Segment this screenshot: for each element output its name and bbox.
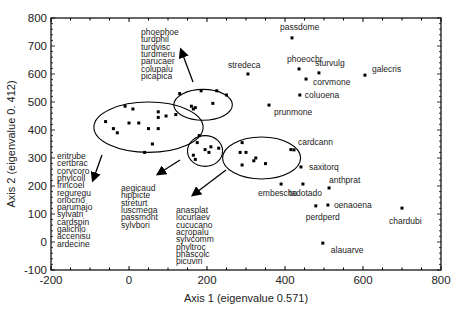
data-point: [147, 127, 150, 130]
point-labels: passdomestredecaphoeochrsturvulgcorvmone…: [228, 22, 422, 255]
point-label: coluoena: [305, 90, 340, 100]
y-tick-label: 100: [28, 208, 47, 220]
data-point: [157, 110, 160, 113]
point-label: galecris: [372, 64, 401, 74]
data-point: [328, 186, 331, 189]
data-point: [241, 164, 244, 167]
data-point: [112, 127, 115, 130]
species-label: picapica: [141, 71, 172, 81]
y-axis-label: Axis 2 (eigenvalue 0. 412): [5, 80, 17, 207]
point-label: chardubi: [389, 216, 422, 226]
species-label: picuviri: [176, 256, 203, 266]
data-point: [291, 36, 294, 39]
ca-ordination-scatter: -1000100200300400500600700800 -200020040…: [0, 0, 457, 313]
data-point: [305, 78, 308, 81]
point-label: tadotado: [289, 188, 322, 198]
data-point: [239, 151, 242, 154]
data-point: [178, 92, 181, 95]
data-point: [301, 183, 304, 186]
y-tick-label: 0: [41, 236, 47, 248]
x-tick-label: 600: [353, 274, 372, 286]
data-point: [321, 242, 324, 245]
point-label: perdperd: [306, 212, 340, 222]
data-point: [401, 207, 404, 210]
data-point: [198, 134, 201, 137]
data-point: [151, 143, 154, 146]
data-point: [280, 183, 283, 186]
arrow: [181, 50, 193, 82]
data-point: [299, 165, 302, 168]
plot-frame: [51, 18, 441, 270]
arrow: [193, 170, 226, 195]
y-tick-label: 800: [28, 12, 47, 24]
data-point: [194, 106, 197, 109]
data-point: [137, 122, 140, 125]
data-point: [116, 131, 119, 134]
data-point: [298, 94, 301, 97]
axis-ticks: [51, 18, 441, 270]
data-point: [289, 148, 292, 151]
y-tick-label: 300: [28, 152, 47, 164]
data-point: [264, 162, 267, 165]
data-point: [326, 204, 329, 207]
point-label: stredeca: [228, 60, 261, 70]
data-point: [225, 94, 228, 97]
point-label: passdome: [280, 22, 319, 32]
y-tick-label: 600: [28, 68, 47, 80]
y-tick-label: 400: [28, 124, 47, 136]
data-point: [104, 120, 107, 123]
data-point: [124, 105, 127, 108]
point-label: oenaoena: [334, 200, 372, 210]
point-label: saxitorq: [309, 162, 339, 172]
data-point: [268, 104, 271, 107]
x-tick-labels: -2000200400600800: [39, 274, 450, 286]
x-tick-label: 800: [431, 274, 450, 286]
x-tick-label: 0: [126, 274, 132, 286]
point-label: cardcann: [298, 137, 333, 147]
data-point: [252, 159, 255, 162]
data-point: [157, 127, 160, 130]
data-point: [143, 151, 146, 154]
data-point: [209, 145, 212, 148]
data-point: [204, 148, 207, 151]
cluster-ellipses: [94, 89, 301, 179]
data-point: [298, 67, 301, 70]
data-point: [215, 89, 218, 92]
x-tick-label: 200: [197, 274, 216, 286]
data-point: [128, 122, 131, 125]
point-label: prunmone: [274, 107, 313, 117]
data-point: [131, 108, 134, 111]
arrow: [93, 155, 102, 180]
point-label: alauarve: [331, 245, 364, 255]
x-tick-label: 400: [275, 274, 294, 286]
species-label: sylvbori: [121, 220, 150, 230]
data-point: [314, 204, 317, 207]
x-axis-label: Axis 1 (eigenvalue 0.571): [184, 292, 308, 304]
data-point: [190, 105, 193, 108]
point-label: anthprat: [329, 175, 361, 185]
data-point: [363, 74, 366, 77]
cluster-right-ellipse: [223, 137, 301, 179]
point-label: corvmone: [313, 77, 351, 87]
data-point: [241, 141, 244, 144]
y-tick-labels: -1000100200300400500600700800: [24, 12, 47, 276]
data-point: [196, 141, 199, 144]
point-label: sturvulg: [315, 58, 345, 68]
y-tick-label: 700: [28, 40, 47, 52]
cluster-species-lists: eritrubecertbraccorvcorophylcollfrincoel…: [57, 27, 214, 266]
data-point: [192, 154, 195, 157]
data-point: [157, 116, 160, 119]
data-point: [211, 102, 214, 105]
cluster-top-ellipse: [174, 89, 233, 120]
data-point: [217, 147, 220, 150]
data-point: [317, 71, 320, 74]
arrow: [158, 160, 180, 174]
data-point: [207, 151, 210, 154]
data-point: [174, 113, 177, 116]
data-point: [165, 115, 168, 118]
data-point: [292, 148, 295, 151]
data-point: [200, 89, 203, 92]
data-point: [254, 157, 257, 160]
x-tick-label: -200: [39, 274, 62, 286]
data-point: [194, 158, 197, 161]
